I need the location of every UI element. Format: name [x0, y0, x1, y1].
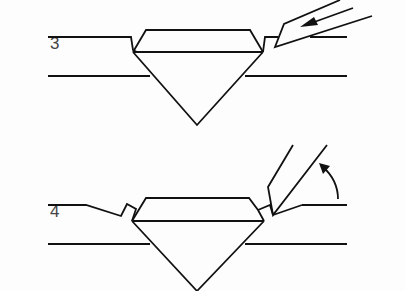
- step-3-figure: [48, 0, 372, 125]
- setting-diagram: [0, 0, 406, 291]
- diagram-canvas: 3 4: [0, 0, 406, 291]
- step-4-figure: [48, 145, 347, 291]
